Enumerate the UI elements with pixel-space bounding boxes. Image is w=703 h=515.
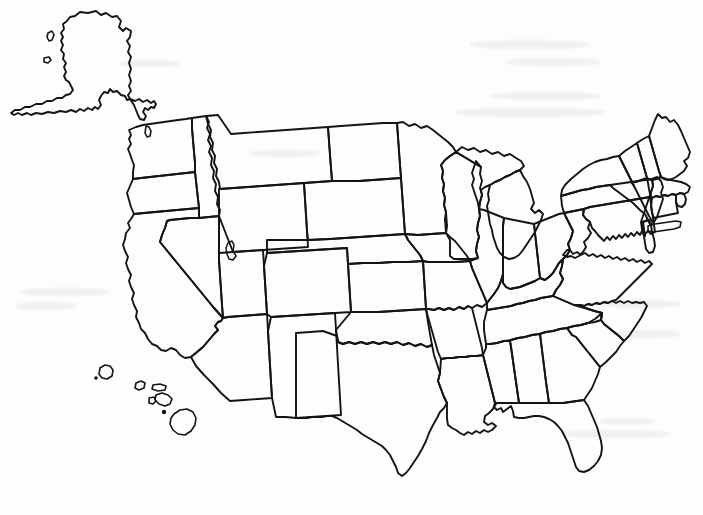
state-alabama [510,334,549,403]
state-tennessee [484,296,602,344]
state-washington [128,118,195,179]
state-georgia [540,328,600,403]
state-new-mexico [268,313,341,418]
state-connecticut [651,194,678,218]
state-new-hampshire [637,136,661,180]
state-illinois [470,209,504,303]
state-nevada [160,216,223,318]
state-oregon [127,172,199,214]
state-utah [219,216,267,318]
state-rhode-island [676,193,686,207]
puget-sound-islands [145,126,151,137]
state-oklahoma [336,309,432,347]
state-montana [206,115,332,189]
state-north-dakota [328,123,401,181]
state-wisconsin [441,152,482,259]
state-maine [649,114,690,180]
state-colorado [264,248,351,317]
state-kansas [348,261,426,312]
state-louisiana [438,355,496,435]
state-arizona [191,314,272,401]
state-west-virginia [563,209,591,258]
state-alaska [11,11,156,120]
us-outline-map-page [0,0,703,515]
state-iowa [405,233,470,262]
state-california [123,208,223,358]
state-mississippi [483,341,519,403]
united-states-map-graphic [0,0,703,515]
state-arkansas [426,306,483,359]
state-missouri [423,261,487,310]
state-florida [494,400,602,472]
state-michigan-upper-peninsula [456,147,524,209]
great-salt-lake [226,241,236,260]
state-virginia [553,250,652,306]
state-hawaii [94,365,196,435]
state-texas [296,331,447,476]
state-south-dakota [304,178,405,240]
